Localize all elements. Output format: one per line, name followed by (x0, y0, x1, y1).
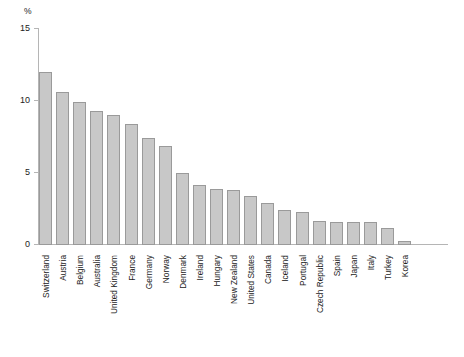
bar (210, 189, 223, 245)
x-axis-tick-label: United Kingdom (107, 249, 121, 262)
bar (107, 115, 120, 245)
x-axis-tick-label: Germany (141, 249, 155, 262)
x-axis-tick-label: Hungary (210, 249, 224, 262)
x-axis-tick-label: Belgium (73, 249, 87, 262)
bar (278, 210, 291, 245)
x-axis-tick-label: United States (244, 249, 258, 262)
x-axis-tick-label: Switzerland (39, 249, 53, 262)
bar-chart: % 051015 SwitzerlandAustriaBelgiumAustra… (0, 0, 464, 357)
x-axis-tick-label: Czech Republic (312, 249, 326, 262)
bar (244, 196, 257, 245)
bar (142, 138, 155, 245)
bars-group (38, 0, 450, 245)
bar (90, 111, 103, 245)
x-axis-tick-label: Italy (363, 249, 377, 262)
x-axis-tick-label: New Zealand (227, 249, 241, 262)
bar (39, 72, 52, 245)
x-axis-label-group: SwitzerlandAustriaBelgiumAustraliaUnited… (38, 248, 450, 354)
x-axis-tick-label: Ireland (192, 249, 206, 262)
bar (159, 146, 172, 245)
x-axis-tick-label: Canada (261, 249, 275, 262)
y-axis-tick-label: 0 (0, 239, 30, 249)
x-axis-tick-label: Turkey (381, 249, 395, 262)
bar (347, 222, 360, 245)
x-axis-tick-label: Norway (158, 249, 172, 262)
bar (227, 190, 240, 245)
x-axis-tick-label: France (124, 249, 138, 262)
bar (73, 102, 86, 245)
bar (364, 222, 377, 245)
x-axis-tick-label: Korea (398, 249, 412, 262)
bar (381, 228, 394, 245)
bar (56, 92, 69, 245)
plot-area: % 051015 SwitzerlandAustriaBelgiumAustra… (0, 0, 464, 357)
x-axis-tick-label: Spain (329, 249, 343, 262)
y-axis-tick-label: 10 (0, 95, 30, 105)
x-axis-tick-label: Austria (56, 249, 70, 262)
y-axis-tick-label: 15 (0, 23, 30, 33)
bar (125, 124, 138, 245)
bar (193, 185, 206, 245)
y-axis-tick-label: 5 (0, 167, 30, 177)
bar (296, 212, 309, 245)
x-axis-tick-label: Japan (346, 249, 360, 262)
x-axis-tick-label: Iceland (278, 249, 292, 262)
x-axis-tick-label: Denmark (175, 249, 189, 262)
bar (261, 203, 274, 245)
x-axis-tick-label: Portugal (295, 249, 309, 262)
bar (176, 173, 189, 245)
x-axis-tick-label: Australia (90, 249, 104, 262)
bar (313, 221, 326, 245)
bar (398, 241, 411, 245)
y-axis-unit-label: % (24, 6, 32, 16)
bar (330, 222, 343, 245)
